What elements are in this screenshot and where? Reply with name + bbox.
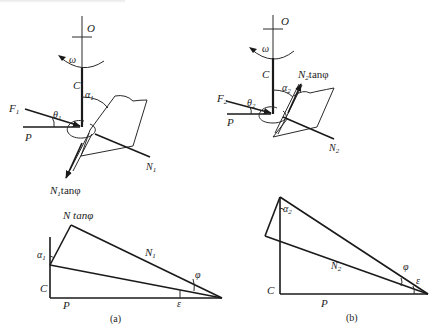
angle-theta-label: θ2: [247, 97, 256, 110]
friction-arrow: [66, 143, 82, 178]
panel-a-force-triangle: α1 N tanφ N1 C P φ ε (a): [37, 209, 222, 325]
blade-edge-2: [73, 134, 92, 171]
rotation-label-omega: ω: [262, 43, 269, 54]
hypotenuse: [280, 197, 428, 294]
label-p: P: [320, 297, 328, 309]
angle-theta-label: θ1: [53, 109, 61, 122]
angle-alpha-label: α1: [85, 89, 94, 102]
axis-label-o: O: [281, 15, 289, 27]
hypotenuse-n: [71, 225, 222, 298]
n-tan-phi-side: [50, 225, 71, 265]
panel-a-force-sketch: O ω C α1 P F1 θ1 N1tanφ N1: [8, 16, 156, 198]
rotation-arrowhead-icon: [58, 55, 66, 61]
angle-eps-label: ε: [177, 298, 181, 309]
angle-phi-label: φ: [403, 261, 409, 272]
normal-n-label: N1: [145, 161, 156, 174]
force-f-label: F2: [216, 92, 228, 106]
blade-surface: [273, 88, 334, 137]
axis-label-o: O: [87, 22, 95, 34]
angle-alpha-label: α2: [282, 82, 291, 95]
rotation-label-omega: ω: [69, 54, 76, 65]
label-p: P: [24, 131, 32, 143]
label-p: P: [62, 299, 70, 311]
angle-phi-arc: [401, 278, 402, 286]
label-c: C: [267, 284, 275, 296]
caption-b: (b): [346, 312, 358, 324]
force-diagram: O ω C α1 P F1 θ1 N1tanφ N1: [0, 0, 441, 335]
friction-label: N2tanφ: [297, 68, 329, 82]
caption-a: (a): [110, 313, 121, 325]
normal-n-line: [95, 134, 150, 157]
angle-alpha-label: α1: [37, 249, 46, 262]
rotation-arrowhead-icon: [249, 47, 257, 53]
label-p: P: [226, 116, 234, 128]
apex-label: N tanφ: [62, 209, 93, 221]
angle-eps-label: ε: [416, 275, 420, 286]
short-side: [265, 197, 280, 236]
angle-phi-label: φ: [195, 269, 201, 280]
axis-label-c: C: [73, 79, 81, 91]
hypotenuse-label: N1: [144, 246, 156, 260]
normal-n-label: N2: [328, 142, 340, 155]
panel-b-force-triangle: α2 N2 C P φ ε (b): [265, 197, 428, 324]
friction-label: N1tanφ: [49, 184, 81, 198]
force-f-label: F1: [8, 102, 19, 116]
angle-eps-arc: [413, 286, 414, 294]
blade-surface: [81, 96, 147, 156]
panel-b-force-sketch: O ω C α2 P F2 θ2 N2tanφ N2: [216, 15, 340, 155]
axis-label-c: C: [262, 68, 270, 80]
label-c: C: [40, 282, 48, 294]
normal-n-line: [283, 117, 334, 139]
